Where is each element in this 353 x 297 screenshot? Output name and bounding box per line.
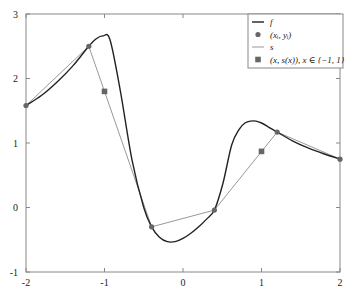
legend-square-icon [255, 57, 261, 63]
x-tick-label: 2 [338, 277, 343, 288]
legend: f(xᵢ, yᵢ)s(x, s(x)), x ∈ {−1, 1} [248, 14, 345, 68]
evaluation-square-marker [259, 149, 265, 155]
chart: -2-1012-10123 f(xᵢ, yᵢ)s(x, s(x)), x ∈ {… [0, 0, 353, 297]
data-point-marker [275, 129, 280, 134]
y-tick-label: 2 [13, 73, 18, 84]
x-tick-label: 0 [181, 277, 186, 288]
data-point-marker [23, 103, 28, 108]
legend-label: (x, s(x)), x ∈ {−1, 1} [270, 55, 345, 65]
legend-label: (xᵢ, yᵢ) [270, 30, 291, 40]
x-tick-label: 1 [259, 277, 264, 288]
data-point-marker [212, 207, 217, 212]
x-tick-label: -2 [22, 277, 30, 288]
evaluation-square-marker [102, 89, 108, 95]
data-point-marker [149, 224, 154, 229]
x-tick-label: -1 [100, 277, 108, 288]
legend-circle-icon [255, 32, 260, 37]
data-point-marker [337, 157, 342, 162]
legend-label: s [270, 42, 274, 52]
y-tick-label: -1 [10, 267, 18, 278]
y-tick-label: 0 [13, 202, 18, 213]
y-tick-label: 1 [13, 138, 18, 149]
series-s-line [26, 46, 340, 227]
y-tick-label: 3 [13, 9, 18, 20]
data-point-marker [86, 44, 91, 49]
